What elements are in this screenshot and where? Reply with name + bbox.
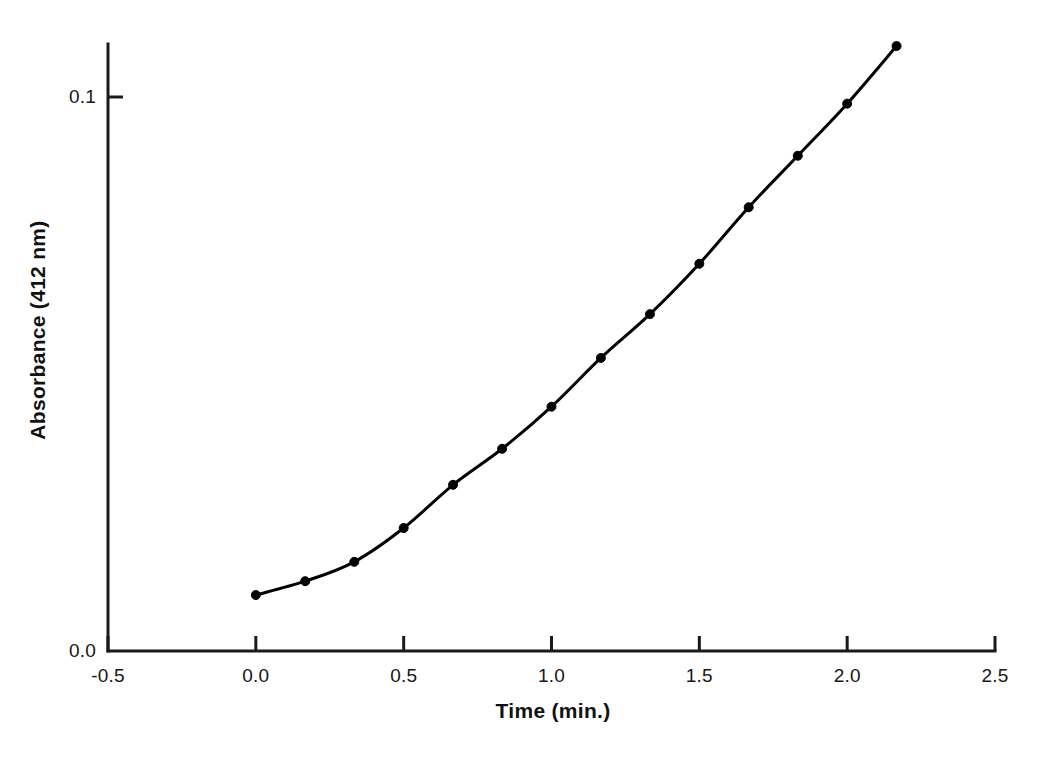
- axes-group: [108, 44, 995, 651]
- data-point-0-5: [498, 444, 507, 453]
- data-point-0-0: [251, 591, 260, 600]
- data-point-0-9: [695, 259, 704, 268]
- axis-ticks-group: [108, 97, 995, 651]
- y-tick-label-1: 0.1: [50, 86, 96, 108]
- data-point-0-4: [449, 480, 458, 489]
- x-tick-label-5: 2.0: [834, 665, 861, 687]
- data-markers-group: [251, 42, 901, 600]
- data-point-0-10: [744, 203, 753, 212]
- data-point-0-13: [892, 42, 901, 51]
- data-series-group: [256, 46, 897, 595]
- data-point-0-8: [645, 310, 654, 319]
- data-point-0-3: [399, 524, 408, 533]
- data-point-0-11: [793, 151, 802, 160]
- series-line-0: [256, 46, 897, 595]
- data-point-0-1: [301, 577, 310, 586]
- x-tick-label-6: 2.5: [981, 665, 1008, 687]
- x-tick-label-0: -0.5: [91, 665, 125, 687]
- x-tick-label-3: 1.0: [538, 665, 565, 687]
- y-axis-title: Absorbance (412 nm): [26, 220, 50, 439]
- chart-figure: -0.50.00.51.01.52.02.5 0.00.1 Time (min.…: [0, 0, 1047, 762]
- data-point-0-12: [843, 99, 852, 108]
- data-point-0-7: [596, 353, 605, 362]
- data-point-0-2: [350, 557, 359, 566]
- x-tick-label-1: 0.0: [242, 665, 269, 687]
- x-tick-label-4: 1.5: [686, 665, 713, 687]
- chart-plot-area: [0, 0, 1047, 762]
- y-tick-label-0: 0.0: [50, 640, 96, 662]
- x-tick-label-2: 0.5: [390, 665, 417, 687]
- x-axis-title: Time (min.): [496, 699, 611, 723]
- data-point-0-6: [547, 402, 556, 411]
